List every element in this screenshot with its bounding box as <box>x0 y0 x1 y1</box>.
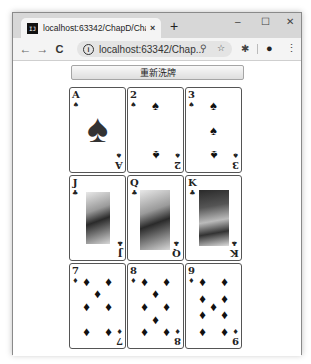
diamond-icon: ♦ <box>83 325 90 338</box>
diamond-icon: ♦ <box>83 300 90 313</box>
diamond-icon: ♦ <box>199 274 206 287</box>
zoom-icon[interactable]: ⚲ <box>200 43 207 53</box>
diamond-icon: ♦ <box>199 325 206 338</box>
card-king-clubs[interactable]: K♣ K♣ <box>185 175 242 261</box>
card-corner: 3♠ <box>188 90 195 110</box>
maximize-icon[interactable]: ☐ <box>261 16 270 27</box>
card-corner: 3♠ <box>232 150 239 170</box>
card-grid: A♠ ♠ A♠ 2♠ ♠ ♠ 2♠ 3♠ ♠ ♠ ♠ 3♠ J♣ <box>69 87 242 349</box>
diamond-icon: ♦ <box>221 308 228 321</box>
diamond-icon: ♦ <box>141 325 148 338</box>
card-queen-clubs[interactable]: Q♣ Q♣ <box>127 175 184 261</box>
face-card-image <box>199 190 229 246</box>
diamond-icon: ♦ <box>163 325 170 338</box>
card-corner: 2♠ <box>130 90 137 110</box>
face-card-image <box>140 190 170 250</box>
profile-icon[interactable]: ● <box>266 42 273 54</box>
card-three-spades[interactable]: 3♠ ♠ ♠ ♠ 3♠ <box>185 87 242 173</box>
card-corner: K♣ <box>188 178 197 198</box>
toolbar-divider <box>257 44 258 54</box>
browser-toolbar: ← → C i localhost:63342/Chap... ⚲ ☆ ✱ ● … <box>13 38 301 61</box>
spade-icon: ♠ <box>152 149 159 162</box>
browser-window: IJ localhost:63342/ChapD/ChapD × + – ☐ ✕… <box>12 12 302 355</box>
star-icon[interactable]: ☆ <box>217 43 225 53</box>
diamond-icon: ♦ <box>105 325 112 338</box>
diamond-icon: ♦ <box>199 308 206 321</box>
spade-icon: ♠ <box>210 149 217 162</box>
card-ace-spades[interactable]: A♠ ♠ A♠ <box>69 87 126 173</box>
card-jack-clubs[interactable]: J♣ J♣ <box>69 175 126 261</box>
spade-icon: ♠ <box>210 98 217 111</box>
close-window-icon[interactable]: ✕ <box>286 16 294 27</box>
diamond-icon: ♦ <box>199 291 206 304</box>
address-bar[interactable]: i localhost:63342/Chap... ⚲ ☆ <box>77 41 232 57</box>
diamond-icon: ♦ <box>163 274 170 287</box>
page-content: 重新洗牌 A♠ ♠ A♠ 2♠ ♠ ♠ 2♠ 3♠ ♠ ♠ ♠ 3♠ <box>13 61 301 356</box>
card-nine-diamonds[interactable]: 9♦ ♦ ♦ ♦ ♦ ♦ ♦ ♦ ♦ ♦ 9♦ <box>185 263 242 349</box>
diamond-icon: ♦ <box>221 274 228 287</box>
back-icon[interactable]: ← <box>17 42 34 56</box>
card-corner: 8♦ <box>174 326 181 346</box>
card-corner: 7♦ <box>116 326 123 346</box>
card-corner: Q♣ <box>172 238 181 258</box>
browser-tab[interactable]: IJ localhost:63342/ChapD/ChapD × <box>21 18 161 38</box>
card-corner: K♣ <box>230 238 239 258</box>
url-text[interactable]: localhost:63342/Chap... <box>99 44 204 55</box>
diamond-icon: ♦ <box>152 287 159 300</box>
reload-icon[interactable]: C <box>51 43 68 55</box>
close-tab-icon[interactable]: × <box>150 23 155 33</box>
card-corner: 9♦ <box>188 266 195 286</box>
diamond-icon: ♦ <box>94 287 101 300</box>
diamond-icon: ♦ <box>221 291 228 304</box>
card-seven-diamonds[interactable]: 7♦ ♦ ♦ ♦ ♦ ♦ ♦ ♦ 7♦ <box>69 263 126 349</box>
card-corner: J♣ <box>72 178 78 198</box>
spade-icon: ♠ <box>87 108 108 148</box>
forward-icon[interactable]: → <box>34 42 51 56</box>
card-eight-diamonds[interactable]: 8♦ ♦ ♦ ♦ ♦ ♦ ♦ ♦ ♦ 8♦ <box>127 263 184 349</box>
card-corner: A♠ <box>115 150 123 170</box>
info-icon[interactable]: i <box>83 44 94 55</box>
card-corner: 8♦ <box>130 266 137 286</box>
spade-icon: ♠ <box>152 98 159 111</box>
card-two-spades[interactable]: 2♠ ♠ ♠ 2♠ <box>127 87 184 173</box>
spade-icon: ♠ <box>210 124 217 137</box>
card-corner: J♣ <box>117 238 123 258</box>
card-corner: 2♠ <box>174 150 181 170</box>
diamond-icon: ♦ <box>152 312 159 325</box>
tab-strip: IJ localhost:63342/ChapD/ChapD × + – ☐ ✕ <box>13 13 301 38</box>
minimize-icon[interactable]: – <box>235 16 241 27</box>
extension-icon[interactable]: ✱ <box>241 43 249 54</box>
card-corner: Q♣ <box>130 178 139 198</box>
card-corner: 9♦ <box>232 326 239 346</box>
favicon-icon: IJ <box>27 23 38 34</box>
diamond-icon: ♦ <box>141 274 148 287</box>
diamond-icon: ♦ <box>105 300 112 313</box>
card-corner: 7♦ <box>72 266 79 286</box>
diamond-icon: ♦ <box>221 325 228 338</box>
face-card-image <box>86 192 110 244</box>
shuffle-button[interactable]: 重新洗牌 <box>71 65 244 80</box>
card-corner: A♠ <box>72 90 80 110</box>
diamond-icon: ♦ <box>141 300 148 313</box>
new-tab-button[interactable]: + <box>170 18 178 34</box>
tab-title: localhost:63342/ChapD/ChapD <box>43 23 146 33</box>
diamond-icon: ♦ <box>83 274 90 287</box>
diamond-icon: ♦ <box>210 300 217 313</box>
diamond-icon: ♦ <box>105 274 112 287</box>
diamond-icon: ♦ <box>163 300 170 313</box>
menu-icon[interactable]: ⋮ <box>286 42 297 55</box>
